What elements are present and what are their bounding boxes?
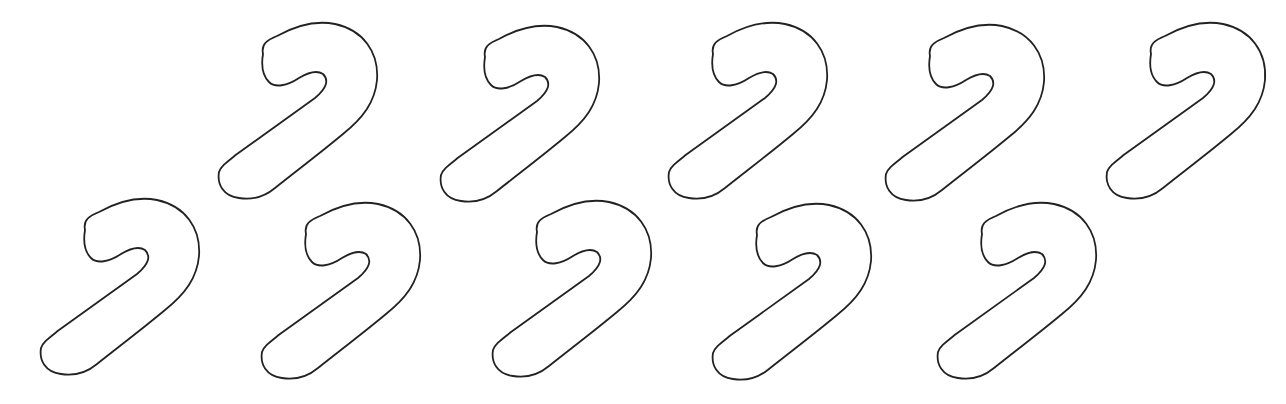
candy-cane-shape-r1-2: [437, 25, 607, 210]
candy-cane-icon: [1103, 22, 1273, 207]
candy-cane-shape-r2-1: [37, 198, 207, 383]
candy-cane-shape-r1-4: [882, 24, 1052, 209]
candy-cane-icon: [258, 202, 428, 387]
candy-cane-icon: [709, 203, 879, 388]
candy-cane-icon: [934, 202, 1104, 387]
candy-cane-icon: [37, 198, 207, 383]
candy-cane-icon: [882, 24, 1052, 209]
candy-cane-icon: [665, 22, 835, 207]
candy-cane-icon: [437, 25, 607, 210]
candy-cane-shape-r2-4: [709, 203, 879, 388]
candy-cane-shape-r1-1: [215, 22, 385, 207]
candy-cane-shape-r2-5: [934, 202, 1104, 387]
candy-cane-shape-r2-2: [258, 202, 428, 387]
candy-cane-shape-r2-3: [489, 200, 659, 385]
candy-cane-icon: [489, 200, 659, 385]
candy-cane-shape-r1-3: [665, 22, 835, 207]
candy-cane-shape-r1-5: [1103, 22, 1273, 207]
candy-cane-icon: [215, 22, 385, 207]
